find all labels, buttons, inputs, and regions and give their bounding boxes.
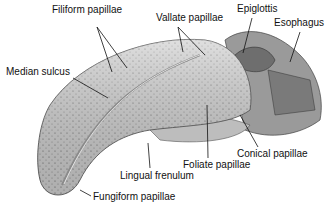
label-conical-papillae: Conical papillae bbox=[237, 148, 308, 159]
label-fungiform-papillae: Fungiform papillae bbox=[93, 191, 175, 202]
label-foliate-papillae: Foliate papillae bbox=[183, 159, 250, 170]
label-vallate-papillae: Vallate papillae bbox=[156, 12, 223, 23]
label-esophagus: Esophagus bbox=[274, 17, 324, 28]
label-lingual-frenulum: Lingual frenulum bbox=[120, 170, 194, 181]
label-median-sulcus: Median sulcus bbox=[6, 66, 70, 77]
label-filiform-papillae: Filiform papillae bbox=[52, 4, 122, 15]
label-epiglottis: Epiglottis bbox=[237, 3, 278, 14]
tongue-anatomy-figure: Filiform papillae Vallate papillae Epigl… bbox=[0, 0, 329, 210]
